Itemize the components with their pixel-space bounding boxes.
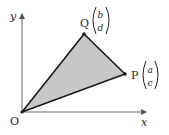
p-vector-left-paren: [143, 61, 146, 89]
origin-label: O: [10, 115, 19, 128]
point-Q-label-group: Q b d: [80, 7, 109, 34]
q-vector-top: b: [98, 10, 104, 20]
x-axis-label: x: [141, 116, 148, 129]
p-vector-right-paren: [155, 61, 158, 89]
point-O-dot: [20, 110, 23, 113]
q-vector-bottom: d: [98, 23, 104, 33]
q-vector-right-paren: [106, 7, 109, 34]
p-vector-bottom: c: [148, 78, 153, 88]
triangle-OPQ: [22, 34, 125, 112]
point-Q-dot: [82, 32, 86, 36]
p-vector-top: a: [148, 65, 153, 75]
point-P-label: P: [131, 69, 139, 82]
y-axis-label: y: [9, 10, 17, 23]
vector-triangle-diagram: y x O Q b d P a c: [0, 0, 169, 135]
q-vector-left-paren: [93, 7, 96, 34]
point-Q-label: Q: [80, 17, 89, 30]
point-P-dot: [123, 72, 127, 76]
point-P-label-group: P a c: [131, 61, 158, 89]
